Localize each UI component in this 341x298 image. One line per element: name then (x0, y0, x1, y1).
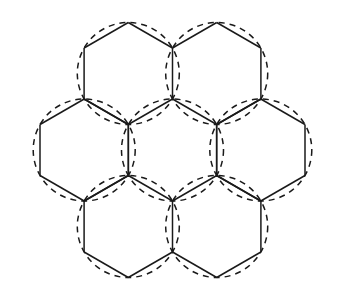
coverage-circle-top-left (77, 23, 179, 125)
hexagon-edge (173, 252, 217, 278)
hexagon-cell-layer (40, 23, 305, 278)
coverage-circle-left (33, 99, 135, 201)
hexagon-edge (217, 23, 261, 49)
hexagon-edge (128, 176, 172, 202)
hexagon-edge (84, 252, 128, 278)
hexagon-edge (217, 99, 261, 125)
coverage-circle-top-right (166, 23, 268, 125)
hexagon-edge (173, 99, 217, 125)
hexagon-edge (261, 99, 305, 125)
hexagon-edge (217, 176, 261, 202)
hexagon-edge (128, 99, 172, 125)
hexagon-edge (128, 252, 172, 278)
hexagon-edge (261, 176, 305, 202)
coverage-circle-center (122, 99, 224, 201)
coverage-circle-bottom-left (77, 176, 179, 278)
hexagon-edge (84, 99, 128, 125)
hexagon-edge (128, 23, 172, 49)
diagram-canvas (0, 0, 341, 298)
hexagonal-coverage-diagram (0, 0, 341, 298)
hexagon-edge (84, 23, 128, 49)
hexagon-edge (84, 176, 128, 202)
hexagon-edge (217, 252, 261, 278)
coverage-circle-bottom-right (166, 176, 268, 278)
hexagon-edge (173, 176, 217, 202)
hexagon-edge (40, 176, 84, 202)
coverage-circle-right (210, 99, 312, 201)
hexagon-edge (173, 23, 217, 49)
hexagon-edge (40, 99, 84, 125)
